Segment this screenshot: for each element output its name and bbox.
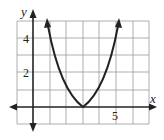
x-axis-label: x (149, 91, 156, 106)
y-axis-arrow-down-icon (30, 123, 37, 132)
y-axis-arrow-up-icon (30, 9, 37, 18)
x-axis-arrow-left-icon (9, 104, 17, 111)
y-tick-4: 4 (23, 32, 29, 46)
y-tick-2: 2 (23, 66, 29, 80)
parabola-graph: y x 4 2 5 (0, 0, 164, 140)
x-tick-5: 5 (112, 109, 118, 123)
y-axis-label: y (19, 4, 27, 19)
grid (17, 21, 149, 124)
